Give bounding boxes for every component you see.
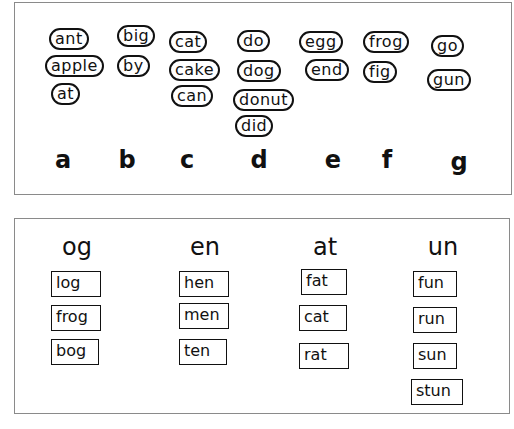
word-bubble: big (117, 25, 155, 47)
letter-label: a (55, 147, 71, 173)
word-card: bog (51, 339, 99, 365)
column-heading: un (428, 235, 458, 259)
word-bubble: do (237, 30, 270, 52)
word-bubble: at (51, 83, 80, 105)
word-bubble: by (117, 55, 150, 77)
word-bubble: gun (427, 69, 471, 91)
word-bubble: cake (169, 59, 220, 81)
word-bubble: donut (233, 89, 294, 111)
letter-label: e (325, 147, 341, 173)
word-card: rat (299, 343, 349, 369)
letter-label: b (118, 147, 135, 173)
word-card: ten (179, 339, 227, 365)
word-bubble: ant (49, 28, 89, 50)
letter-sort-sheet: ant apple at big by cat cake can do dog … (14, 2, 512, 195)
column-heading: en (190, 235, 220, 259)
word-card: fun (413, 271, 457, 297)
word-card: fat (301, 269, 347, 295)
word-card: sun (413, 343, 457, 369)
letter-label: c (180, 147, 194, 173)
word-card: frog (51, 305, 101, 331)
word-bubble: can (171, 85, 213, 107)
word-bubble: dog (237, 60, 281, 82)
word-card: men (179, 303, 229, 329)
word-bubble: apple (45, 55, 104, 77)
word-bubble: go (431, 35, 464, 57)
word-bubble: frog (363, 31, 409, 53)
word-bubble: cat (169, 31, 207, 53)
word-card: hen (179, 271, 229, 297)
word-card: cat (299, 305, 347, 331)
word-bubble: did (235, 115, 273, 137)
letter-label: g (450, 149, 467, 175)
column-heading: at (313, 235, 337, 259)
letter-label: d (250, 147, 267, 173)
word-bubble: end (305, 59, 349, 81)
column-heading: og (62, 235, 92, 259)
letter-label: f (382, 147, 392, 173)
word-card: log (51, 271, 101, 297)
word-bubble: fig (363, 61, 397, 83)
word-card: run (413, 307, 457, 333)
word-family-sheet: og en at un log frog bog hen men ten fat… (14, 218, 510, 414)
word-card: stun (411, 379, 463, 405)
word-bubble: egg (299, 31, 343, 53)
